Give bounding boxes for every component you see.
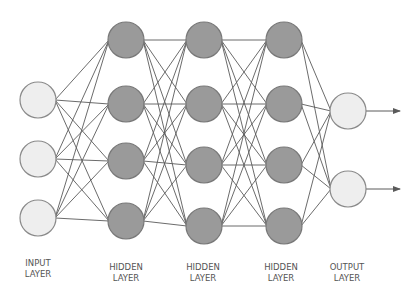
hidden-2-node-2 <box>186 86 222 122</box>
connection-edge <box>301 40 331 111</box>
output-layer-label: OUTPUTLAYER <box>317 262 377 284</box>
hidden-2-layer-label: HIDDENLAYER <box>173 262 233 284</box>
label-line-2: LAYER <box>251 273 311 284</box>
connection-edge <box>55 218 109 221</box>
label-line-2: LAYER <box>8 269 68 280</box>
neural-network-diagram <box>0 0 420 300</box>
connection-edge <box>55 40 109 218</box>
hidden-3-node-2 <box>266 86 302 122</box>
hidden-3-node-4 <box>266 208 302 244</box>
connection-edge <box>55 104 109 159</box>
input-node-2 <box>20 141 56 177</box>
hidden-1-node-2 <box>108 86 144 122</box>
hidden-1-node-1 <box>108 22 144 58</box>
label-line-1: HIDDEN <box>251 262 311 273</box>
hidden-3-node-1 <box>266 22 302 58</box>
label-line-1: INPUT <box>8 258 68 269</box>
input-layer-label: INPUTLAYER <box>8 258 68 280</box>
connection-edge <box>55 40 109 100</box>
connection-edge <box>143 221 187 226</box>
input-node-3 <box>20 200 56 236</box>
hidden-3-layer-label: HIDDENLAYER <box>251 262 311 284</box>
output-node-1 <box>330 93 366 129</box>
output-arrows <box>366 111 400 189</box>
connections <box>55 40 331 226</box>
label-line-2: LAYER <box>96 273 156 284</box>
label-line-2: LAYER <box>317 273 377 284</box>
connection-edge <box>301 104 331 111</box>
hidden-3-node-3 <box>266 147 302 183</box>
connection-edge <box>55 161 109 218</box>
hidden-2-node-4 <box>186 208 222 244</box>
label-line-2: LAYER <box>173 273 233 284</box>
hidden-1-node-3 <box>108 143 144 179</box>
hidden-1-layer-label: HIDDENLAYER <box>96 262 156 284</box>
hidden-2-node-3 <box>186 147 222 183</box>
label-line-1: HIDDEN <box>96 262 156 273</box>
input-node-1 <box>20 82 56 118</box>
output-node-2 <box>330 171 366 207</box>
nodes <box>20 22 366 244</box>
label-line-1: OUTPUT <box>317 262 377 273</box>
hidden-2-node-1 <box>186 22 222 58</box>
connection-edge <box>301 40 331 189</box>
connection-edge <box>55 40 109 159</box>
hidden-1-node-4 <box>108 203 144 239</box>
connection-edge <box>301 111 331 165</box>
connection-edge <box>55 100 109 104</box>
label-line-1: HIDDEN <box>173 262 233 273</box>
